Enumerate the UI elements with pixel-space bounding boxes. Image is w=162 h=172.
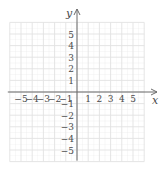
y-tick-label: 2 xyxy=(68,64,74,74)
y-tick-label: −4 xyxy=(61,134,75,144)
y-tick-label: 1 xyxy=(68,76,74,86)
y-tick-label: −5 xyxy=(61,146,75,156)
y-tick-label: −1 xyxy=(61,99,74,109)
y-tick-label: 5 xyxy=(68,30,74,40)
x-tick-label: 3 xyxy=(108,94,114,104)
x-axis-label: x xyxy=(152,94,159,107)
y-tick-label: −2 xyxy=(61,111,74,121)
x-tick-label: 2 xyxy=(97,94,103,104)
y-axis-label: y xyxy=(65,7,73,20)
y-tick-label: −3 xyxy=(61,122,75,132)
y-tick-label: 4 xyxy=(68,41,74,51)
x-tick-label: 1 xyxy=(85,94,91,104)
x-tick-labels: −5−4−3−2−112345 xyxy=(14,94,136,104)
plot-svg: −5−4−3−2−112345 54321−1−2−3−4−5 x y xyxy=(0,0,162,172)
y-tick-label: 3 xyxy=(68,53,74,63)
x-tick-label: 5 xyxy=(130,94,136,104)
x-tick-label: 4 xyxy=(119,94,125,104)
